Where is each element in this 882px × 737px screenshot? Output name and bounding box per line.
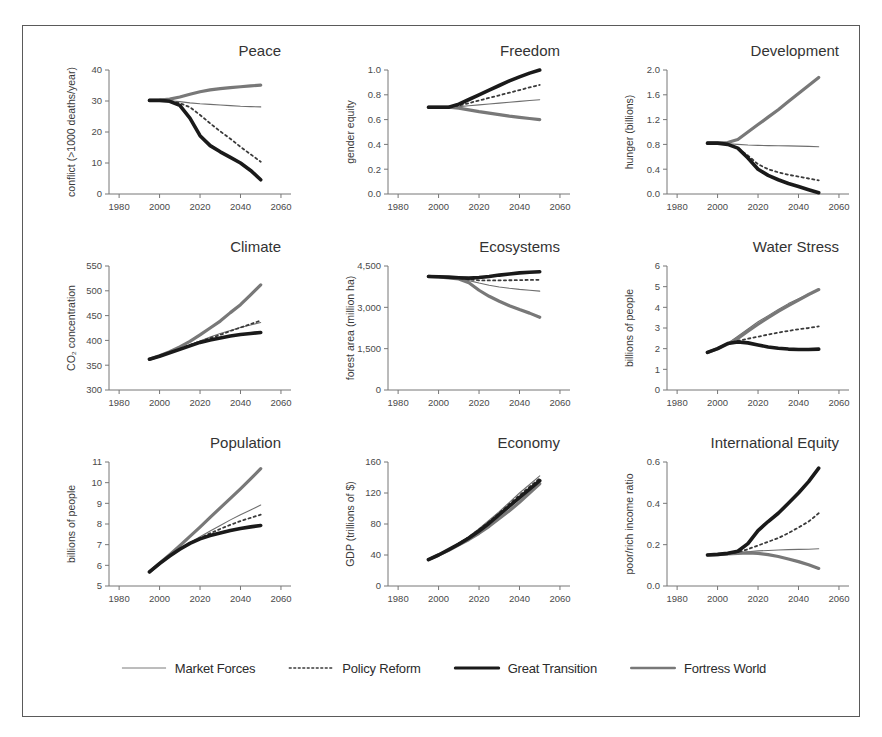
panel-grid: Peace01020304019802000202020402060confli…	[23, 26, 861, 636]
x-tick-label: 2000	[149, 593, 170, 604]
chart-panel-development: Development0.00.40.81.21.62.019802000202…	[581, 34, 860, 230]
series-line-great-transition	[149, 525, 260, 572]
y-axis-label: CO₂ concentration	[65, 285, 77, 371]
x-tick-label: 1980	[109, 593, 130, 604]
y-tick-label: 0.2	[368, 164, 381, 175]
y-tick-label: 0	[376, 580, 381, 591]
y-axis-label: poor/rich income ratio	[623, 473, 635, 574]
chart-legend: Market ForcesPolicy ReformGreat Transiti…	[23, 638, 861, 698]
x-tick-label: 2000	[428, 397, 449, 408]
y-tick-label: 4,500	[357, 260, 381, 271]
x-tick-label: 2040	[509, 201, 530, 212]
y-axis-label: hunger (billions)	[623, 95, 635, 170]
y-tick-label: 120	[365, 487, 381, 498]
y-tick-label: 5	[655, 281, 660, 292]
y-axis-label: billions of people	[623, 289, 635, 367]
y-tick-label: 0.2	[647, 539, 660, 550]
x-tick-label: 2040	[509, 397, 530, 408]
series-line-fortress-world	[428, 107, 539, 119]
x-tick-label: 2040	[788, 593, 809, 604]
y-axis-label: forest area (million ha)	[344, 276, 356, 380]
y-tick-label: 0.4	[647, 164, 660, 175]
panel-title: Ecosystems	[479, 238, 560, 255]
y-tick-label: 9	[97, 498, 102, 509]
series-line-fortress-world	[428, 276, 539, 317]
x-tick-label: 2060	[270, 201, 291, 212]
y-tick-label: 1.6	[647, 89, 660, 100]
y-tick-label: 0	[376, 384, 381, 395]
x-tick-label: 2000	[149, 201, 170, 212]
x-tick-label: 1980	[667, 593, 688, 604]
panel-title: Population	[210, 434, 281, 451]
x-tick-label: 1980	[388, 397, 409, 408]
legend-label: Policy Reform	[342, 661, 420, 676]
y-tick-label: 6	[655, 260, 660, 271]
x-tick-label: 2060	[828, 593, 849, 604]
x-tick-label: 2020	[189, 397, 210, 408]
y-tick-label: 350	[86, 360, 102, 371]
y-tick-label: 160	[365, 456, 381, 467]
y-tick-label: 10	[91, 157, 102, 168]
x-tick-label: 1980	[109, 201, 130, 212]
series-line-policy-reform	[707, 513, 818, 555]
y-tick-label: 450	[86, 310, 102, 321]
legend-swatch	[285, 663, 337, 673]
chart-panel-ecosystems: Ecosystems01,5003,0004,50019802000202020…	[302, 230, 581, 426]
x-tick-label: 2040	[509, 593, 530, 604]
legend-swatch	[451, 663, 503, 673]
x-tick-label: 2040	[230, 201, 251, 212]
chart-panel-economy: Economy0408012016019802000202020402060GD…	[302, 426, 581, 622]
legend-swatch	[627, 663, 679, 673]
series-line-fortress-world	[149, 85, 260, 100]
legend-label: Market Forces	[175, 661, 255, 676]
y-tick-label: 0.0	[368, 188, 381, 199]
legend-item-great-transition[interactable]: Great Transition	[451, 661, 597, 676]
x-tick-label: 1980	[388, 593, 409, 604]
y-tick-label: 500	[86, 285, 102, 296]
y-tick-label: 10	[91, 477, 102, 488]
y-tick-label: 1.2	[647, 114, 660, 125]
x-tick-label: 2060	[828, 201, 849, 212]
y-tick-label: 1,500	[357, 343, 381, 354]
series-line-fortress-world	[707, 290, 818, 353]
x-tick-label: 2060	[270, 593, 291, 604]
x-tick-label: 2020	[468, 397, 489, 408]
series-line-policy-reform	[149, 100, 260, 161]
y-tick-label: 11	[92, 456, 102, 467]
x-tick-label: 2060	[549, 201, 570, 212]
y-tick-label: 1.0	[368, 64, 381, 75]
x-tick-label: 2020	[747, 397, 768, 408]
legend-swatch	[118, 663, 170, 673]
chart-panel-freedom: Freedom0.00.20.40.60.81.0198020002020204…	[302, 34, 581, 230]
series-line-fortress-world	[149, 285, 260, 359]
y-tick-label: 3,000	[357, 302, 381, 313]
legend-item-policy-reform[interactable]: Policy Reform	[285, 661, 420, 676]
legend-label: Fortress World	[684, 661, 766, 676]
y-tick-label: 80	[370, 518, 381, 529]
panel-title: Water Stress	[753, 238, 839, 255]
x-tick-label: 2040	[788, 397, 809, 408]
x-tick-label: 1980	[667, 201, 688, 212]
series-line-policy-reform	[428, 85, 539, 107]
legend-label: Great Transition	[508, 661, 597, 676]
x-tick-label: 2060	[549, 397, 570, 408]
x-tick-label: 2000	[149, 397, 170, 408]
series-line-great-transition	[149, 100, 260, 179]
y-tick-label: 7	[97, 539, 102, 550]
legend-item-market-forces[interactable]: Market Forces	[118, 661, 255, 676]
panel-title: Peace	[238, 42, 281, 59]
y-tick-label: 300	[86, 384, 102, 395]
y-tick-label: 0	[655, 384, 660, 395]
y-tick-label: 1	[655, 364, 660, 375]
x-tick-label: 2020	[468, 593, 489, 604]
y-tick-label: 0.6	[368, 114, 381, 125]
x-tick-label: 2000	[707, 593, 728, 604]
series-line-fortress-world	[707, 77, 818, 143]
series-line-great-transition	[707, 468, 818, 555]
y-tick-label: 30	[91, 95, 102, 106]
y-axis-label: billions of people	[65, 485, 77, 563]
y-tick-label: 550	[86, 260, 102, 271]
x-tick-label: 1980	[109, 397, 130, 408]
y-tick-label: 0.6	[647, 456, 660, 467]
legend-item-fortress-world[interactable]: Fortress World	[627, 661, 766, 676]
